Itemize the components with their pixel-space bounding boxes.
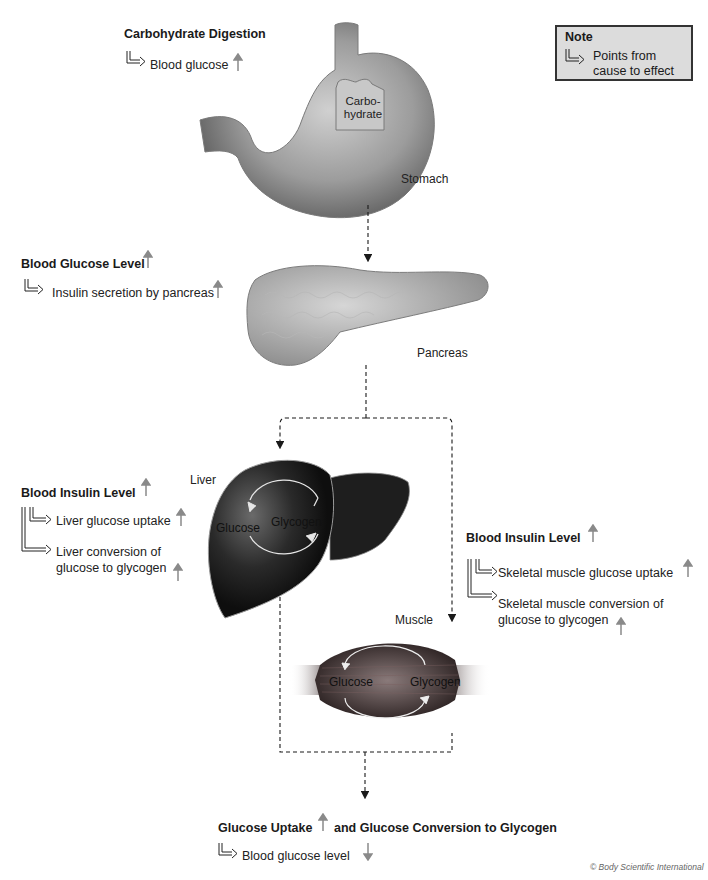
blood-glucose-effect: Blood glucose (150, 57, 229, 73)
double-bracket-arrow-icon (466, 559, 498, 605)
up-arrow-icon (173, 563, 183, 581)
glucose-conversion-heading: and Glucose Conversion to Glycogen (334, 821, 557, 835)
up-arrow-icon (233, 53, 243, 71)
muscle-conversion-effect: Skeletal muscle conversion of glucose to… (498, 596, 663, 628)
carbohydrate-label: Carbo- hydrate (342, 95, 384, 121)
up-arrow-icon (318, 813, 328, 831)
diagram-graphics (0, 0, 708, 880)
blood-glucose-level-effect: Blood glucose level (242, 848, 350, 864)
glucose-uptake-heading: Glucose Uptake (218, 821, 312, 835)
bracket-arrow-icon (126, 50, 148, 68)
liver-label: Liver (190, 473, 216, 487)
up-arrow-icon (588, 524, 598, 542)
liver-blood-insulin-heading: Blood Insulin Level (21, 486, 136, 500)
note-legend: Note Points from cause to effect (555, 25, 693, 81)
muscle-label: Muscle (395, 613, 433, 627)
up-arrow-icon (683, 559, 693, 577)
muscle-glycogen-label: Glycogen (410, 675, 461, 689)
carbohydrate-digestion-heading: Carbohydrate Digestion (124, 27, 266, 41)
bracket-arrow-icon (24, 278, 46, 296)
liver-glucose-label: Glucose (216, 521, 260, 535)
muscle-glucose-uptake-effect: Skeletal muscle glucose uptake (498, 565, 673, 581)
bracket-arrow-icon (218, 842, 240, 860)
insulin-secretion-effect: Insulin secretion by pancreas (52, 285, 214, 301)
pancreas-label: Pancreas (417, 346, 468, 360)
liver-illustration (208, 460, 409, 618)
stomach-label: Stomach (401, 172, 448, 186)
stomach-illustration (200, 23, 434, 218)
liver-conversion-effect: Liver conversion of glucose to glycogen (56, 544, 167, 576)
up-arrow-icon (141, 478, 151, 496)
muscle-blood-insulin-heading: Blood Insulin Level (466, 531, 581, 545)
copyright-notice: © Body Scientific International (590, 862, 704, 872)
liver-glycogen-label: Glycogen (271, 515, 322, 529)
up-arrow-icon (616, 617, 626, 635)
up-arrow-icon (213, 280, 223, 298)
liver-glucose-uptake-effect: Liver glucose uptake (56, 513, 171, 529)
blood-glucose-level-heading: Blood Glucose Level (21, 257, 145, 271)
down-arrow-icon (363, 843, 373, 861)
note-text-line2: cause to effect (593, 64, 674, 79)
double-bracket-arrow-icon (20, 507, 52, 559)
muscle-glucose-label: Glucose (329, 675, 373, 689)
up-arrow-icon (176, 508, 186, 526)
up-arrow-icon (143, 250, 153, 268)
note-title: Note (565, 30, 683, 44)
note-text-line1: Points from (593, 49, 674, 64)
bracket-arrow-icon (565, 49, 587, 65)
